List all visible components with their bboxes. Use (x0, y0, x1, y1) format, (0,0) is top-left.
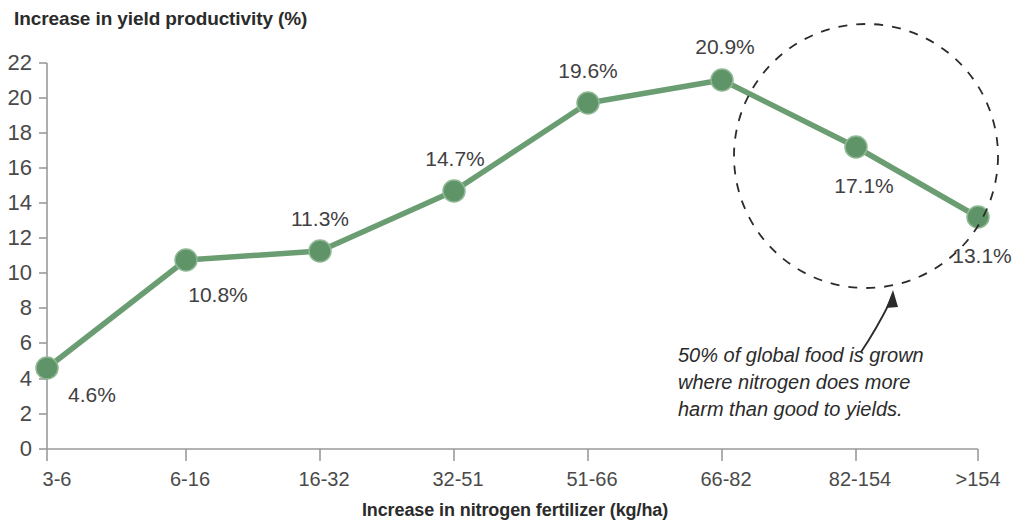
x-axis (47, 449, 978, 461)
data-point (443, 180, 465, 202)
x-tick-label: 6-16 (170, 468, 210, 491)
data-point-label: 14.7% (425, 147, 485, 171)
annotation-line-3: harm than good to yields. (678, 396, 998, 423)
x-axis-title: Increase in nitrogen fertilizer (kg/ha) (0, 500, 1030, 521)
y-tick-label: 22 (0, 50, 32, 76)
x-tick-label: 3-6 (43, 468, 72, 491)
data-point (175, 249, 197, 271)
annotation-line-1: 50% of global food is grown (678, 342, 998, 369)
data-point-label: 4.6% (68, 383, 116, 407)
y-tick-label: 2 (0, 401, 32, 427)
y-tick-label: 6 (0, 330, 32, 356)
x-tick-label: >154 (955, 468, 1000, 491)
data-point-markers (36, 69, 989, 379)
x-tick-label: 82-154 (829, 468, 891, 491)
y-tick-label: 0 (0, 436, 32, 462)
y-tick-label: 16 (0, 155, 32, 181)
data-point-label: 17.1% (834, 174, 894, 198)
y-tick-label: 4 (0, 366, 32, 392)
data-point (845, 136, 867, 158)
annotation-text: 50% of global food is grown where nitrog… (678, 342, 998, 423)
y-tick-label: 14 (0, 190, 32, 216)
data-point-label: 11.3% (291, 207, 349, 231)
y-tick-label: 8 (0, 295, 32, 321)
data-point-label: 19.6% (558, 59, 618, 83)
x-axis-ticks (47, 449, 978, 461)
y-tick-label: 12 (0, 225, 32, 251)
y-tick-label: 10 (0, 260, 32, 286)
data-point (577, 92, 599, 114)
y-tick-label: 20 (0, 85, 32, 111)
data-point (36, 357, 58, 379)
x-tick-label: 51-66 (566, 468, 617, 491)
y-axis (39, 63, 47, 449)
data-point-label: 20.9% (695, 35, 755, 59)
data-point-label: 13.1% (952, 244, 1012, 268)
data-point (309, 240, 331, 262)
chart-plot-area (0, 0, 1030, 528)
annotation-line-2: where nitrogen does more (678, 369, 998, 396)
chart-container: Increase in yield productivity (%) (0, 0, 1030, 528)
x-tick-label: 66-82 (700, 468, 751, 491)
data-line (47, 80, 978, 368)
x-tick-label: 16-32 (298, 468, 349, 491)
data-point (711, 69, 733, 91)
y-tick-label: 18 (0, 120, 32, 146)
y-axis-ticks (39, 63, 47, 449)
data-point-label: 10.8% (188, 283, 248, 307)
x-tick-label: 32-51 (432, 468, 483, 491)
